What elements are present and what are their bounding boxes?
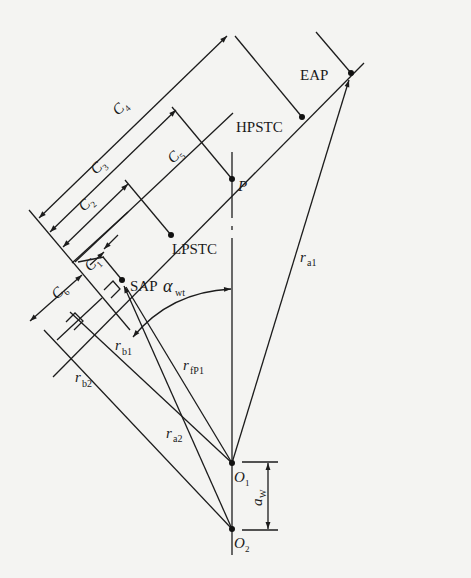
label-p: P xyxy=(237,178,247,194)
line-of-action xyxy=(53,63,364,377)
svg-text:b2: b2 xyxy=(82,378,92,389)
point-p xyxy=(229,176,235,182)
label-alpha-wt: α wt xyxy=(163,276,185,298)
svg-text:2: 2 xyxy=(245,544,250,554)
label-ra2: r a2 xyxy=(166,425,182,444)
label-eap: EAP xyxy=(300,67,328,83)
point-sap xyxy=(119,277,125,283)
svg-text:r: r xyxy=(75,369,81,385)
svg-text:O: O xyxy=(234,469,245,485)
point-o1 xyxy=(229,460,235,466)
label-rb1: r b1 xyxy=(115,337,132,357)
radii-lines xyxy=(124,80,349,529)
label-o2: O 2 xyxy=(234,535,250,554)
label-aw: a W xyxy=(249,489,268,506)
svg-text:r: r xyxy=(115,337,121,353)
label-c5: C 5 xyxy=(164,144,188,168)
diagram-svg: EAP HPSTC P LPSTC SAP α wt O 1 O 2 a W r… xyxy=(0,0,471,578)
label-c4: C 4 xyxy=(109,96,133,120)
contact-points xyxy=(119,70,354,532)
point-hpstc xyxy=(299,114,305,120)
label-c6: C 6 xyxy=(48,280,72,304)
gear-mesh-diagram: EAP HPSTC P LPSTC SAP α wt O 1 O 2 a W r… xyxy=(0,0,471,578)
svg-text:b1: b1 xyxy=(122,346,132,357)
label-ra1: r a1 xyxy=(300,249,316,268)
svg-text:a2: a2 xyxy=(173,433,182,444)
label-hpstc: HPSTC xyxy=(236,119,283,135)
svg-text:r: r xyxy=(166,425,172,441)
label-sap: SAP xyxy=(130,278,158,294)
label-c1: C 1 xyxy=(81,253,105,277)
svg-text:O: O xyxy=(234,535,245,551)
label-rfp1: r fP1 xyxy=(183,357,204,376)
extension-lines xyxy=(29,32,351,529)
point-lpstc xyxy=(168,232,174,238)
right-angle-marks xyxy=(66,281,120,330)
point-o2 xyxy=(229,526,235,532)
label-lpstc: LPSTC xyxy=(172,241,217,257)
svg-text:wt: wt xyxy=(175,287,185,298)
svg-text:α: α xyxy=(163,276,173,296)
point-eap xyxy=(348,70,354,76)
svg-text:fP1: fP1 xyxy=(190,365,204,376)
svg-text:a1: a1 xyxy=(307,257,316,268)
svg-text:1: 1 xyxy=(245,478,250,488)
label-o1: O 1 xyxy=(234,469,250,488)
svg-text:r: r xyxy=(300,249,306,265)
svg-text:W: W xyxy=(258,489,268,498)
svg-text:r: r xyxy=(183,357,189,373)
svg-text:a: a xyxy=(249,499,265,507)
